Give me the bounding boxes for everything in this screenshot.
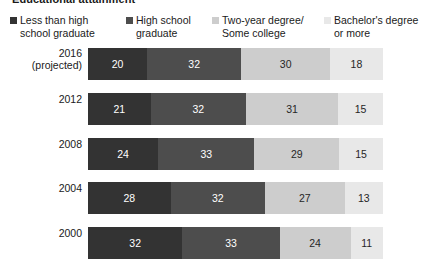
legend-item-two-year-degree[interactable]: Two-year degree/ Some college (212, 14, 318, 39)
stacked-bar: 20 32 30 18 (88, 48, 383, 80)
bar-segment-bachelors-degree[interactable]: 18 (330, 48, 383, 80)
stacked-bar: 32 33 24 11 (88, 227, 383, 259)
chart-title-clipped: Educational attainment (12, 0, 272, 5)
bar-segment-two-year-degree[interactable]: 27 (265, 182, 345, 214)
bar-segment-bachelors-degree[interactable]: 11 (351, 227, 383, 259)
stacked-bar: 28 32 27 13 (88, 182, 383, 214)
row-axis-label: 2000 (0, 227, 82, 239)
bar-segment-value: 32 (129, 238, 141, 249)
legend-item-bachelors-degree[interactable]: Bachelor's degree or more (324, 14, 426, 39)
bar-segment-high-school-graduate[interactable]: 32 (171, 182, 265, 214)
legend-item-label: High school graduate (136, 14, 208, 39)
bar-segment-value: 27 (299, 193, 311, 204)
bar-segment-less-than-high-school[interactable]: 24 (88, 138, 158, 170)
bar-segment-value: 33 (225, 238, 237, 249)
bar-segment-value: 24 (117, 149, 129, 160)
bar-segment-high-school-graduate[interactable]: 33 (182, 227, 279, 259)
row-axis-label: 2012 (0, 93, 82, 105)
bar-segment-value: 32 (188, 59, 200, 70)
row-axis-label: 2016 (projected) (0, 47, 82, 71)
bar-segment-value: 24 (309, 238, 321, 249)
bar-segment-value: 13 (358, 193, 370, 204)
bar-segment-two-year-degree[interactable]: 30 (241, 48, 330, 80)
legend-item-label: Bachelor's degree or more (334, 14, 426, 39)
bar-segment-value: 15 (355, 149, 367, 160)
bar-segment-high-school-graduate[interactable]: 32 (151, 93, 246, 125)
bar-segment-less-than-high-school[interactable]: 28 (88, 182, 171, 214)
bar-segment-value: 18 (351, 59, 363, 70)
chart-row-2016: 2016 (projected) 20 32 30 18 (0, 45, 426, 85)
bar-segment-value: 32 (212, 193, 224, 204)
chart-row-2012: 2012 21 32 31 15 (0, 90, 426, 130)
legend-item-less-than-high-school[interactable]: Less than high school graduate (10, 14, 114, 39)
bar-segment-value: 21 (113, 104, 125, 115)
chart-row-2000: 2000 32 33 24 11 (0, 224, 426, 264)
row-axis-label: 2004 (0, 182, 82, 194)
bar-segment-value: 30 (280, 59, 292, 70)
legend-item-high-school-graduate[interactable]: High school graduate (126, 14, 210, 39)
stacked-bar: 24 33 29 15 (88, 138, 383, 170)
bar-segment-two-year-degree[interactable]: 29 (254, 138, 339, 170)
bar-segment-high-school-graduate[interactable]: 32 (147, 48, 241, 80)
bar-segment-value: 32 (192, 104, 204, 115)
bar-segment-value: 29 (291, 149, 303, 160)
legend-item-label: Less than high school graduate (20, 14, 112, 39)
stacked-bar-chart: Educational attainment Less than high sc… (0, 0, 426, 274)
bar-segment-two-year-degree[interactable]: 31 (246, 93, 338, 125)
bar-segment-less-than-high-school[interactable]: 20 (88, 48, 147, 80)
bar-segment-value: 20 (112, 59, 124, 70)
legend-square-icon (324, 17, 331, 24)
bar-segment-high-school-graduate[interactable]: 33 (158, 138, 254, 170)
stacked-bar: 21 32 31 15 (88, 93, 383, 125)
legend-square-icon (10, 17, 17, 24)
legend-square-icon (212, 17, 219, 24)
bar-segment-value: 33 (200, 149, 212, 160)
bar-segment-less-than-high-school[interactable]: 32 (88, 227, 182, 259)
chart-legend: Less than high school graduate High scho… (8, 14, 422, 44)
chart-row-2008: 2008 24 33 29 15 (0, 135, 426, 175)
chart-row-2004: 2004 28 32 27 13 (0, 179, 426, 219)
bar-segment-bachelors-degree[interactable]: 15 (338, 93, 383, 125)
bar-segment-value: 11 (361, 238, 372, 249)
bar-segment-value: 31 (286, 104, 298, 115)
legend-item-label: Two-year degree/ Some college (222, 14, 318, 39)
row-axis-label: 2008 (0, 138, 82, 150)
legend-square-icon (126, 17, 133, 24)
bar-segment-two-year-degree[interactable]: 24 (280, 227, 351, 259)
chart-plot-area: 2016 (projected) 20 32 30 18 2012 21 32 (0, 45, 426, 274)
bar-segment-value: 28 (123, 193, 135, 204)
bar-segment-less-than-high-school[interactable]: 21 (88, 93, 151, 125)
bar-segment-bachelors-degree[interactable]: 13 (345, 182, 383, 214)
bar-segment-value: 15 (355, 104, 367, 115)
bar-segment-bachelors-degree[interactable]: 15 (339, 138, 383, 170)
